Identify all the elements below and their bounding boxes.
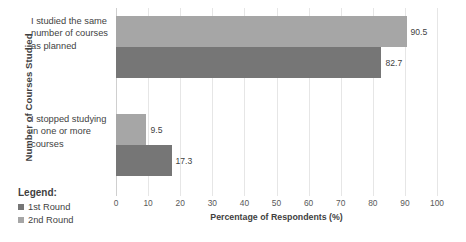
x-tick-label: 0 xyxy=(114,198,119,208)
x-tick-label: 80 xyxy=(368,198,377,208)
legend-swatch-icon xyxy=(18,204,24,210)
x-axis-ticks: 0102030405060708090100 xyxy=(116,198,437,210)
x-tick-label: 70 xyxy=(336,198,345,208)
x-tick-label: 100 xyxy=(430,198,444,208)
legend-label: 2nd Round xyxy=(28,215,74,225)
legend-label: 1st Round xyxy=(28,202,70,212)
legend: Legend: 1st Round 2nd Round xyxy=(18,187,110,228)
x-tick-label: 50 xyxy=(272,198,281,208)
x-tick-label: 10 xyxy=(143,198,152,208)
bar xyxy=(116,16,407,47)
bar-chart: Number of Courses Studied I studied the … xyxy=(0,0,466,242)
x-tick-label: 60 xyxy=(304,198,313,208)
bar-value-label: 90.5 xyxy=(411,27,428,37)
bar-value-label: 82.7 xyxy=(385,58,402,68)
x-tick-label: 90 xyxy=(400,198,409,208)
legend-item-2nd-round[interactable]: 2nd Round xyxy=(18,215,110,225)
bar xyxy=(116,114,146,145)
category-label-1: I stopped studying in one or more course… xyxy=(31,113,115,150)
x-axis-title: Percentage of Respondents (%) xyxy=(116,212,437,222)
x-tick-label: 40 xyxy=(240,198,249,208)
bar xyxy=(116,47,381,78)
plot-area: 90.582.79.517.3 xyxy=(116,8,437,196)
category-label-0: I studied the same number of courses as … xyxy=(31,15,115,52)
legend-title: Legend: xyxy=(18,187,110,198)
bar xyxy=(116,145,172,176)
bar-value-label: 9.5 xyxy=(150,125,162,135)
legend-swatch-icon xyxy=(18,217,24,223)
bar-value-label: 17.3 xyxy=(176,156,193,166)
x-tick-label: 20 xyxy=(176,198,185,208)
gridline xyxy=(437,8,438,196)
legend-item-1st-round[interactable]: 1st Round xyxy=(18,202,110,212)
x-tick-label: 30 xyxy=(208,198,217,208)
